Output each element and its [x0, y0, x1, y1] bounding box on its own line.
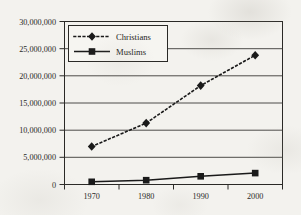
y-label-20m: 20,000,000	[19, 72, 56, 81]
muslims-point-1980	[143, 177, 150, 184]
x-axis-ticks	[65, 185, 283, 190]
series-muslims	[88, 170, 258, 185]
y-label-30m: 30,000,000	[19, 18, 56, 27]
christians-point-1980	[142, 119, 150, 128]
y-label-5m: 5,000,000	[23, 153, 56, 162]
y-label-25m: 25,000,000	[19, 45, 56, 54]
x-label-1990: 1990	[193, 192, 209, 201]
series-christians	[88, 51, 259, 151]
x-label-1980: 1980	[138, 192, 154, 201]
y-label-10m: 10,000,000	[19, 126, 56, 135]
christians-point-1990	[197, 81, 205, 90]
chart-canvas: 30,000,000 25,000,000 20,000,000 15,000,…	[0, 0, 301, 215]
muslims-point-1970	[88, 179, 95, 186]
y-axis-ticks	[60, 22, 65, 185]
legend-label-muslims: Muslims	[116, 47, 147, 57]
x-axis-labels: 1970 1980 1990 2000	[84, 192, 264, 201]
x-label-2000: 2000	[247, 192, 263, 201]
christians-point-1970	[88, 142, 96, 151]
gridlines	[65, 49, 283, 158]
x-label-1970: 1970	[84, 192, 100, 201]
legend-label-christians: Christians	[116, 32, 152, 42]
square-marker-icon	[89, 48, 96, 55]
muslims-line	[92, 173, 256, 182]
muslims-point-1990	[197, 173, 204, 180]
chart-legend: Christians Muslims	[69, 26, 168, 62]
line-chart: 30,000,000 25,000,000 20,000,000 15,000,…	[0, 0, 301, 215]
christians-point-2000	[251, 51, 259, 60]
y-axis-labels: 30,000,000 25,000,000 20,000,000 15,000,…	[19, 18, 56, 190]
y-label-0: 0	[52, 181, 56, 190]
muslims-point-2000	[252, 170, 259, 177]
christians-line	[92, 55, 256, 146]
y-label-15m: 15,000,000	[19, 99, 56, 108]
